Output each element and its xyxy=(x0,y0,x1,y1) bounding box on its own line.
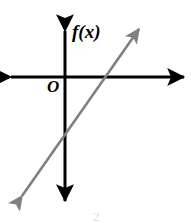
cropped-text-artifact: 2 xyxy=(93,210,100,223)
coordinate-plane-figure: f(x) O 2 xyxy=(0,0,191,223)
function-line-fx xyxy=(22,29,139,196)
function-label: f(x) xyxy=(72,22,100,41)
origin-label: O xyxy=(47,78,59,95)
